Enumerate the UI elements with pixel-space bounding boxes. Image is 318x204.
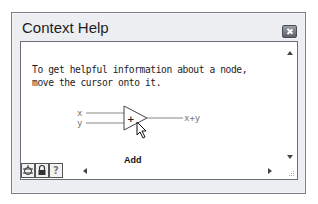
title-bar[interactable]: Context Help [12,13,305,41]
context-help-window: Context Help To get helpful information … [11,12,306,194]
help-icon: ? [53,165,59,176]
input-y-label: y [77,118,83,128]
close-icon[interactable] [282,25,297,38]
detailed-help-button[interactable]: ? [49,163,63,178]
help-content-panel: To get helpful information about a node,… [20,41,298,180]
lock-icon [36,164,48,177]
show-optional-terminals-icon [22,164,34,177]
operator-symbol: + [127,114,135,124]
input-x-label: x [77,108,83,118]
help-content: To get helpful information about a node,… [21,42,284,164]
add-node-diagram: x y + x+y [21,42,284,164]
vertical-scrollbar[interactable] [283,42,297,164]
bottom-toolbar: ? [21,163,297,179]
show-optional-terminals-button[interactable] [21,163,35,178]
scroll-right-icon[interactable] [268,168,272,174]
scroll-up-icon[interactable] [287,51,293,55]
cursor-icon [137,122,146,138]
output-label: x+y [184,113,201,123]
scroll-down-icon[interactable] [287,155,293,159]
window-title: Context Help [22,19,109,36]
lock-button[interactable] [35,163,49,178]
scroll-left-icon[interactable] [83,168,87,174]
resize-grip-icon[interactable] [287,169,295,177]
